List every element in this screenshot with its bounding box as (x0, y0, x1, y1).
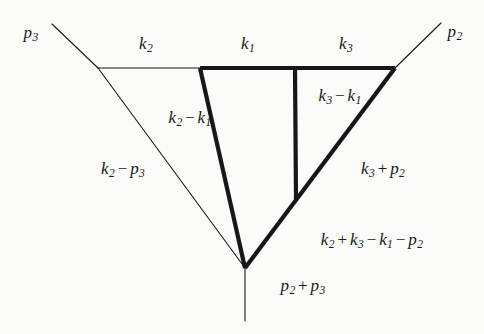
symbol: k1 (198, 108, 212, 127)
label-k2-k3-k1-p2: k2+k3−k1−p2 (321, 230, 423, 251)
symbol: k2 (101, 159, 115, 178)
label-p3: p3 (24, 23, 39, 44)
label-k2: k2 (139, 34, 153, 55)
label-p2: p2 (448, 22, 463, 43)
symbol: k3 (361, 159, 375, 178)
label-p2-plus-p3: p2+p3 (280, 276, 325, 297)
operator: − (182, 108, 197, 127)
symbol: k2 (168, 108, 182, 127)
label-k3-minus-k1: k3−k1 (318, 86, 361, 107)
subscript: 3 (32, 32, 38, 45)
subscript: 3 (139, 168, 145, 181)
symbol: k3 (318, 86, 332, 105)
symbol: k3 (350, 230, 364, 249)
operator: + (375, 159, 390, 178)
symbol: k2 (139, 34, 153, 53)
operator: − (115, 159, 130, 178)
edge-p3-leg (52, 24, 98, 68)
symbol: p2 (448, 22, 463, 41)
operator: + (335, 230, 350, 249)
operator: − (364, 230, 379, 249)
label-k3: k3 (339, 34, 353, 55)
symbol: k1 (348, 86, 362, 105)
edge-k3-k1-vertical (295, 68, 296, 199)
symbol: p2 (408, 230, 423, 249)
symbol: k1 (379, 230, 393, 249)
symbol: p3 (24, 23, 39, 42)
symbol: p2 (280, 276, 295, 295)
label-k2-minus-k1: k2−k1 (168, 108, 211, 129)
subscript: 2 (417, 239, 423, 252)
label-k1: k1 (241, 34, 255, 55)
symbol: p2 (390, 159, 405, 178)
feynman-diagram: k2k1k3p3p2k3−k1k2−k1k2−p3k3+p2k2+k3−k1−p… (0, 0, 484, 334)
operator: − (332, 86, 347, 105)
symbol: p3 (311, 276, 326, 295)
symbol: k1 (241, 34, 255, 53)
symbol: k2 (321, 230, 335, 249)
symbol: p3 (130, 159, 145, 178)
subscript: 2 (456, 31, 462, 44)
operator: − (393, 230, 408, 249)
subscript: 3 (347, 43, 353, 56)
subscript: 1 (249, 43, 255, 56)
label-k2-minus-p3: k2−p3 (101, 159, 145, 180)
subscript: 3 (320, 285, 326, 298)
subscript: 2 (147, 43, 153, 56)
label-k3-plus-p2: k3+p2 (361, 159, 405, 180)
operator: + (295, 276, 310, 295)
edge-p2-leg (395, 23, 441, 68)
subscript: 2 (399, 168, 405, 181)
subscript: 1 (206, 117, 212, 130)
subscript: 1 (356, 95, 362, 108)
symbol: k3 (339, 34, 353, 53)
